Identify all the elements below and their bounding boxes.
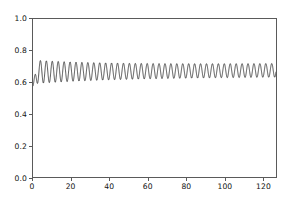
y-tick-label: 0.8 [15, 46, 27, 55]
y-tick-label: 0.0 [15, 174, 27, 183]
x-tick-label: 80 [181, 182, 191, 191]
y-tick-label: 0.4 [15, 110, 27, 119]
x-tick-label: 60 [143, 182, 153, 191]
x-tick-label: 40 [104, 182, 114, 191]
x-tick-mark [186, 178, 187, 181]
figure-canvas: 0.00.20.40.60.81.0 020406080100120 [0, 0, 293, 204]
x-tick-mark [263, 178, 264, 181]
x-tick-label: 100 [218, 182, 233, 191]
x-tick-mark [32, 178, 33, 181]
x-tick-label: 20 [66, 182, 76, 191]
x-tick-mark [109, 178, 110, 181]
x-tick-label: 0 [30, 182, 35, 191]
y-tick-label: 0.6 [15, 78, 27, 87]
data-line-series [33, 19, 276, 177]
x-tick-label: 120 [256, 182, 271, 191]
plot-area [32, 18, 277, 178]
signal-curve-path [33, 61, 276, 87]
x-tick-mark [71, 178, 72, 181]
x-tick-mark [225, 178, 226, 181]
x-tick-mark [148, 178, 149, 181]
y-tick-label: 1.0 [15, 14, 27, 23]
y-tick-label: 0.2 [15, 142, 27, 151]
